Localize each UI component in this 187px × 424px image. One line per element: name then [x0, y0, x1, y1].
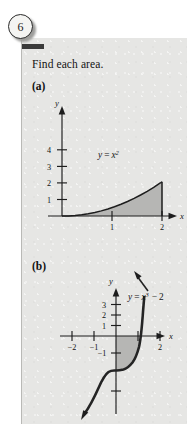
figure-b-function-label: y=x3−2 — [127, 291, 164, 303]
figure-b-y-tick-label-1: 1 — [102, 322, 106, 331]
problem-number-badge-circle: 6 — [8, 14, 33, 39]
figure-a-function-label: y=x2 — [97, 149, 120, 161]
figure-b-x-tick-label-2: 2 — [158, 343, 162, 352]
figure-a-shaded-region — [62, 182, 162, 216]
problem-prompt: Find each area. — [32, 58, 103, 70]
figure-a-x-tick-label-2: 2 — [160, 223, 164, 232]
part-label-a: (a) — [32, 80, 45, 92]
figure-b-graph: −2 −1 2 3 2 1 −1 y x y=x3−2 — [30, 274, 187, 424]
figure-b-label-leader-arrowhead — [134, 271, 142, 280]
figure-b-x-axis-label: x — [168, 331, 173, 341]
page-sheet: Find each area. (a) 1 — [22, 38, 187, 424]
figure-a-x-axis-label: x — [179, 211, 184, 221]
figure-b-x-tick-label-minus-2: −2 — [68, 343, 77, 352]
figure-a-x-tick-label-1: 1 — [110, 223, 114, 232]
figure-b-y-axis-arrow — [113, 288, 120, 297]
figure-b-y-axis-label: y — [108, 276, 113, 286]
figure-a-y-tick-label-1: 1 — [47, 196, 51, 205]
figure-b-x-axis-arrow — [157, 333, 166, 340]
figure-b-y-tick-label-2: 2 — [102, 311, 106, 320]
figure-a-y-axis-arrow — [59, 106, 66, 115]
figure-a-y-axis-label: y — [54, 98, 59, 108]
problem-number-badge: 6 — [8, 14, 38, 44]
figure-a-y-tick-label-4: 4 — [47, 146, 51, 155]
figure-b-curve — [85, 296, 144, 413]
part-label-b: (b) — [32, 260, 46, 272]
figure-b-y-tick-label-3: 3 — [102, 301, 106, 310]
problem-number-bar — [22, 44, 44, 49]
figure-a-y-tick-label-3: 3 — [47, 163, 51, 172]
figure-a-graph: 1 2 3 4 1 2 y x y=x2 — [30, 94, 180, 244]
figure-b-y-tick-label-minus-1: −1 — [98, 349, 107, 358]
figure-a-x-axis-arrow — [169, 213, 178, 220]
figure-a-y-tick-label-2: 2 — [47, 179, 51, 188]
